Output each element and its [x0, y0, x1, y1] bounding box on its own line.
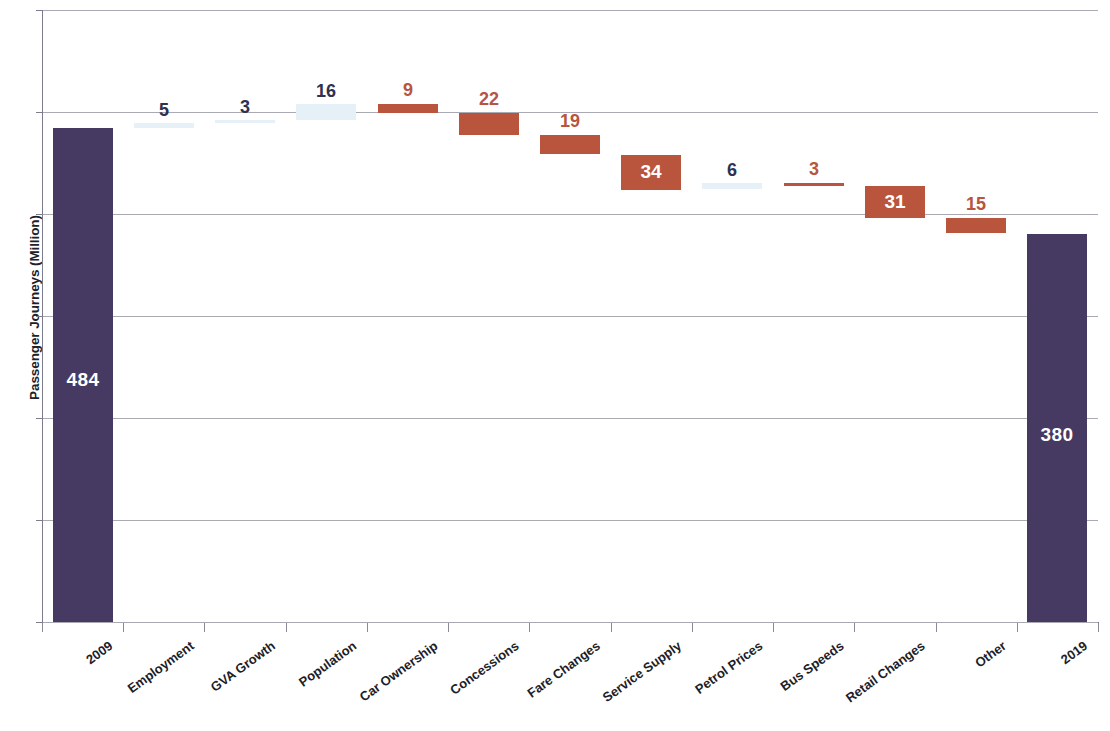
bar-bus-speeds — [784, 183, 844, 186]
x-axis-tick — [42, 623, 43, 632]
bar-employment — [134, 123, 194, 128]
value-label-concessions: 22 — [459, 90, 519, 108]
y-axis-tick — [36, 520, 43, 521]
category-label-population: Population — [296, 638, 359, 690]
y-axis-title: Passenger Journeys (Million) — [27, 178, 42, 438]
value-label-employment: 5 — [134, 101, 194, 119]
value-label-car-ownership: 9 — [378, 81, 438, 99]
gridline — [42, 622, 1098, 623]
y-axis-tick — [36, 418, 43, 419]
value-label-other: 15 — [946, 195, 1006, 213]
x-axis-tick — [1098, 623, 1099, 632]
category-label-employment: Employment — [125, 638, 197, 696]
bar-population — [296, 104, 356, 120]
category-label-car-ownership: Car Ownership — [357, 638, 441, 704]
gridline — [42, 418, 1098, 419]
y-axis-tick — [36, 214, 43, 215]
x-axis-tick — [936, 623, 937, 632]
gridline — [42, 214, 1098, 215]
x-axis-tick — [611, 623, 612, 632]
y-axis-tick — [36, 112, 43, 113]
category-label-other: Other — [972, 638, 1009, 671]
x-axis-tick — [123, 623, 124, 632]
x-axis-tick — [692, 623, 693, 632]
gridline — [42, 316, 1098, 317]
category-label-bus-speeds: Bus Speeds — [777, 638, 846, 694]
value-label-bus-speeds: 3 — [784, 160, 844, 178]
category-label-petrol-prices: Petrol Prices — [692, 638, 765, 697]
category-label-gva-growth: GVA Growth — [208, 638, 278, 695]
x-axis-tick — [367, 623, 368, 632]
y-axis-tick — [36, 316, 43, 317]
category-label-retail-changes: Retail Changes — [843, 638, 928, 705]
bar-fare-changes — [540, 135, 600, 154]
x-axis-tick — [773, 623, 774, 632]
value-label-2019: 380 — [1027, 425, 1087, 444]
value-label-fare-changes: 19 — [540, 112, 600, 130]
value-label-retail-changes: 31 — [865, 192, 925, 211]
bar-petrol-prices — [702, 183, 762, 189]
category-label-service-supply: Service Supply — [600, 638, 684, 705]
category-label-concessions: Concessions — [447, 638, 521, 698]
x-axis-tick — [286, 623, 287, 632]
category-label-fare-changes: Fare Changes — [524, 638, 602, 701]
value-label-2009: 484 — [53, 370, 113, 389]
waterfall-chart: Passenger Journeys (Million) 48453169221… — [0, 0, 1110, 731]
bar-concessions — [459, 113, 519, 135]
gridline — [42, 520, 1098, 521]
gridline — [42, 10, 1098, 11]
bar-other — [946, 218, 1006, 233]
x-axis-tick — [529, 623, 530, 632]
category-label-2009: 2009 — [83, 638, 115, 667]
value-label-service-supply: 34 — [621, 162, 681, 181]
value-label-population: 16 — [296, 82, 356, 100]
x-axis-tick — [1017, 623, 1018, 632]
value-label-gva-growth: 3 — [215, 98, 275, 116]
x-axis-tick — [854, 623, 855, 632]
category-label-2019: 2019 — [1058, 638, 1090, 667]
y-axis-tick — [36, 10, 43, 11]
value-label-petrol-prices: 6 — [702, 161, 762, 179]
bar-gva-growth — [215, 120, 275, 123]
bar-car-ownership — [378, 104, 438, 113]
x-axis-tick — [448, 623, 449, 632]
x-axis-tick — [204, 623, 205, 632]
